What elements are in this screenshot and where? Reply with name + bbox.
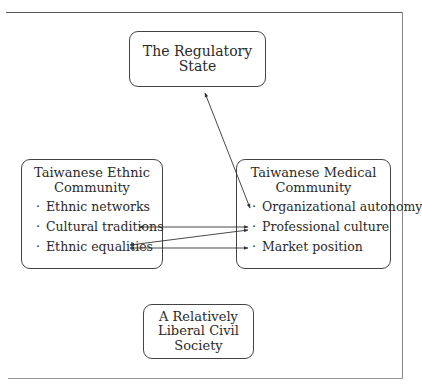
medical-item-organizational-autonomy: ·Organizational autonomy: [252, 197, 390, 217]
frame-top-border: [6, 12, 403, 13]
civil-society-title: A Relatively Liberal Civil Society: [158, 310, 239, 354]
ethnic-community-items: ·Ethnic networks ·Cultural traditions ·E…: [36, 197, 162, 257]
civil-society-node: A Relatively Liberal Civil Society: [143, 304, 254, 359]
ethnic-item-equalities: ·Ethnic equalities: [36, 237, 162, 257]
ethnic-item-cultural-traditions: ·Cultural traditions: [36, 217, 162, 237]
medical-community-title-line1: Taiwanese Medical: [237, 165, 390, 180]
item-label: Cultural traditions: [46, 219, 164, 234]
bullet-icon: ·: [252, 237, 262, 257]
civil-society-title-line3: Society: [158, 339, 239, 354]
ethnic-community-title-line1: Taiwanese Ethnic: [22, 165, 162, 180]
medical-community-items: ·Organizational autonomy ·Professional c…: [252, 197, 390, 257]
civil-society-title-line2: Liberal Civil: [158, 324, 239, 339]
civil-society-title-line1: A Relatively: [158, 310, 239, 325]
medical-community-title: Taiwanese Medical Community: [237, 165, 390, 195]
item-label: Organizational autonomy: [262, 199, 422, 214]
item-label: Professional culture: [262, 219, 389, 234]
ethnic-community-title-line2: Community: [22, 180, 162, 195]
regulatory-state-title: The Regulatory State: [130, 44, 265, 74]
ethnic-community-node: Taiwanese Ethnic Community ·Ethnic netwo…: [21, 159, 163, 269]
item-label: Market position: [262, 239, 363, 254]
medical-item-market-position: ·Market position: [252, 237, 390, 257]
frame-right-border: [402, 12, 403, 378]
bullet-icon: ·: [252, 217, 262, 237]
item-label: Ethnic networks: [46, 199, 150, 214]
bullet-icon: ·: [36, 237, 46, 257]
regulatory-state-node: The Regulatory State: [129, 31, 266, 87]
frame-bottom-border: [8, 378, 403, 379]
medical-item-professional-culture: ·Professional culture: [252, 217, 390, 237]
medical-community-node: Taiwanese Medical Community ·Organizatio…: [236, 159, 391, 269]
item-label: Ethnic equalities: [46, 239, 153, 254]
ethnic-community-title: Taiwanese Ethnic Community: [22, 165, 162, 195]
medical-community-title-line2: Community: [237, 180, 390, 195]
bullet-icon: ·: [252, 197, 262, 217]
ethnic-item-networks: ·Ethnic networks: [36, 197, 162, 217]
bullet-icon: ·: [36, 197, 46, 217]
bullet-icon: ·: [36, 217, 46, 237]
